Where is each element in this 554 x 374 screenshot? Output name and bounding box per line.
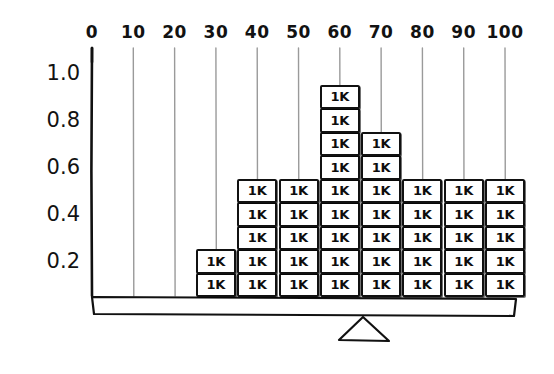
unit-block: 1K bbox=[237, 249, 277, 274]
x-tick-label-70: 70 bbox=[369, 22, 394, 42]
unit-block: 1K bbox=[361, 273, 401, 298]
unit-block: 1K bbox=[485, 179, 525, 204]
unit-block: 1K bbox=[237, 273, 277, 298]
unit-block: 1K bbox=[279, 202, 319, 227]
unit-block: 1K bbox=[402, 226, 442, 251]
unit-block: 1K bbox=[196, 273, 236, 298]
unit-block: 1K bbox=[485, 249, 525, 274]
unit-block: 1K bbox=[320, 179, 360, 204]
unit-block: 1K bbox=[361, 132, 401, 157]
x-tick-label-40: 40 bbox=[245, 22, 270, 42]
unit-block: 1K bbox=[320, 249, 360, 274]
y-tick-label-0.2: 0.2 bbox=[47, 249, 80, 273]
unit-block: 1K bbox=[485, 273, 525, 298]
unit-block: 1K bbox=[237, 226, 277, 251]
unit-block: 1K bbox=[485, 226, 525, 251]
x-tick-label-60: 60 bbox=[327, 22, 352, 42]
unit-block: 1K bbox=[444, 202, 484, 227]
x-tick-label-20: 20 bbox=[162, 22, 187, 42]
unit-block: 1K bbox=[320, 226, 360, 251]
unit-block: 1K bbox=[196, 249, 236, 274]
unit-block: 1K bbox=[320, 108, 360, 133]
unit-block: 1K bbox=[237, 179, 277, 204]
block-histogram-chart: 0102030405060708090100 1.00.80.60.40.2 1… bbox=[0, 0, 554, 374]
x-tick-label-80: 80 bbox=[410, 22, 435, 42]
unit-block: 1K bbox=[320, 155, 360, 180]
x-tick-label-30: 30 bbox=[204, 22, 229, 42]
unit-block: 1K bbox=[361, 226, 401, 251]
unit-block: 1K bbox=[361, 179, 401, 204]
x-tick-label-90: 90 bbox=[451, 22, 476, 42]
y-tick-label-0.8: 0.8 bbox=[47, 108, 80, 132]
unit-block: 1K bbox=[320, 132, 360, 157]
y-tick-label-0.4: 0.4 bbox=[47, 202, 80, 226]
unit-block: 1K bbox=[402, 273, 442, 298]
unit-block: 1K bbox=[444, 249, 484, 274]
unit-block: 1K bbox=[444, 273, 484, 298]
unit-block: 1K bbox=[279, 273, 319, 298]
y-tick-label-1.0: 1.0 bbox=[47, 61, 80, 85]
unit-block: 1K bbox=[402, 179, 442, 204]
gridline-20 bbox=[175, 48, 176, 296]
unit-block: 1K bbox=[402, 249, 442, 274]
unit-block: 1K bbox=[444, 226, 484, 251]
x-tick-label-100: 100 bbox=[487, 22, 524, 42]
unit-block: 1K bbox=[485, 202, 525, 227]
gridline-10 bbox=[133, 48, 134, 296]
unit-block: 1K bbox=[279, 226, 319, 251]
unit-block: 1K bbox=[320, 85, 360, 110]
unit-block: 1K bbox=[237, 202, 277, 227]
x-tick-label-0: 0 bbox=[86, 22, 98, 42]
unit-block: 1K bbox=[320, 273, 360, 298]
fulcrum-triangle bbox=[339, 317, 389, 341]
unit-block: 1K bbox=[361, 249, 401, 274]
x-tick-label-10: 10 bbox=[121, 22, 146, 42]
unit-block: 1K bbox=[402, 202, 442, 227]
unit-block: 1K bbox=[320, 202, 360, 227]
unit-block: 1K bbox=[279, 179, 319, 204]
x-tick-label-50: 50 bbox=[286, 22, 311, 42]
y-axis-line bbox=[91, 48, 92, 296]
y-tick-label-0.6: 0.6 bbox=[47, 155, 80, 179]
unit-block: 1K bbox=[444, 179, 484, 204]
unit-block: 1K bbox=[279, 249, 319, 274]
unit-block: 1K bbox=[361, 202, 401, 227]
balance-beam bbox=[92, 297, 516, 316]
unit-block: 1K bbox=[361, 155, 401, 180]
